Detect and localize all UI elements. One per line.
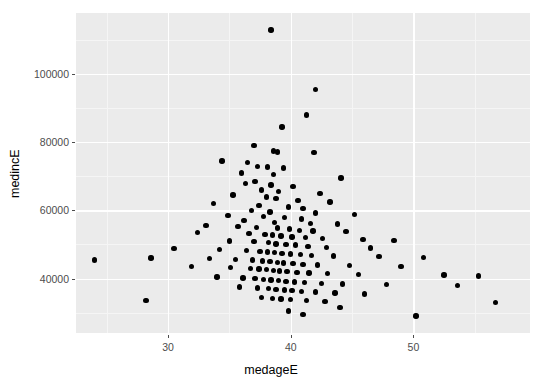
scatter-point [241, 218, 246, 223]
y-tick-label: 80000 [40, 136, 69, 148]
scatter-point [297, 228, 302, 233]
scatter-point [275, 149, 280, 154]
scatter-point [252, 179, 257, 184]
scatter-point [217, 247, 222, 252]
scatter-point [300, 312, 305, 317]
x-tick-label: 50 [408, 341, 420, 353]
scatter-point [413, 313, 418, 318]
scatter-point [283, 242, 288, 247]
scatter-point [245, 160, 250, 165]
gridline-major-vertical [413, 13, 414, 333]
y-tick-label: 40000 [40, 273, 69, 285]
scatter-point [264, 194, 269, 199]
scatter-point [259, 187, 264, 192]
scatter-point [244, 248, 249, 253]
scatter-point [282, 287, 287, 292]
scatter-point [283, 279, 288, 284]
gridline-major-horizontal [76, 74, 530, 75]
scatter-point [233, 257, 238, 262]
scatter-point [332, 290, 337, 295]
scatter-point [441, 272, 446, 277]
scatter-point [256, 266, 261, 271]
scatter-point [265, 164, 270, 169]
gridline-major-horizontal [76, 142, 530, 143]
gridline-minor-vertical [229, 13, 230, 333]
scatter-point [304, 112, 309, 117]
scatter-point [299, 289, 304, 294]
scatter-point [256, 203, 261, 208]
scatter-point [230, 192, 235, 197]
scatter-point [281, 260, 286, 265]
scatter-point [337, 305, 342, 310]
y-tick-label: 60000 [40, 204, 69, 216]
scatter-point [252, 276, 257, 281]
scatter-point [320, 236, 325, 241]
x-tick-label: 30 [162, 341, 174, 353]
scatter-point [276, 189, 281, 194]
scatter-point [227, 238, 232, 243]
scatter-point [368, 245, 373, 250]
x-tick-mark [413, 335, 414, 338]
scatter-point [325, 271, 330, 276]
gridline-minor-vertical [475, 13, 476, 333]
gridline-minor-horizontal [76, 108, 530, 109]
scatter-point [315, 262, 320, 267]
scatter-point [455, 283, 460, 288]
scatter-point [268, 27, 273, 32]
scatter-point [264, 267, 269, 272]
scatter-point [261, 277, 266, 282]
scatter-point [265, 249, 270, 254]
scatter-point [250, 257, 255, 262]
scatter-point [295, 198, 300, 203]
scatter-point [92, 257, 97, 262]
scatter-point [304, 298, 309, 303]
scatter-point [235, 224, 240, 229]
scatter-point [243, 181, 248, 186]
scatter-point [276, 278, 281, 283]
gridline-minor-vertical [107, 13, 108, 333]
scatter-point [298, 252, 303, 257]
scatter-point [189, 264, 194, 269]
gridline-minor-horizontal [76, 244, 530, 245]
scatter-point [143, 298, 148, 303]
scatter-point [286, 204, 291, 209]
scatter-point [322, 299, 327, 304]
scatter-point [277, 268, 282, 273]
gridline-minor-horizontal [76, 40, 530, 41]
scatter-point [278, 296, 283, 301]
scatter-point [148, 255, 153, 260]
scatter-point [324, 245, 329, 250]
scatter-point [302, 280, 307, 285]
scatter-point [335, 221, 340, 226]
scatter-point [251, 143, 256, 148]
scatter-point [360, 237, 365, 242]
scatter-point [493, 300, 498, 305]
scatter-point [343, 229, 348, 234]
scatter-point [384, 282, 389, 287]
scatter-point [260, 258, 265, 263]
scatter-point [268, 182, 273, 187]
scatter-point [219, 158, 224, 163]
scatter-point [308, 221, 313, 226]
scatter-point [352, 212, 357, 217]
scatter-point [293, 242, 298, 247]
y-tick-mark [72, 279, 75, 280]
scatter-point [309, 253, 314, 258]
scatter-point [327, 199, 332, 204]
scatter-point [356, 272, 361, 277]
plot-panel [76, 13, 530, 333]
scatter-point [254, 225, 259, 230]
scatter-point [171, 246, 176, 251]
scatter-point [362, 291, 367, 296]
scatter-point [313, 87, 318, 92]
y-tick-mark [72, 74, 75, 75]
scatter-point [273, 196, 278, 201]
gridline-minor-vertical [352, 13, 353, 333]
scatter-point [279, 251, 284, 256]
scatter-point [311, 150, 316, 155]
scatter-point [310, 228, 315, 233]
scatter-point [273, 241, 278, 246]
scatter-point [391, 238, 396, 243]
scatter-point [225, 213, 230, 218]
scatter-point [292, 279, 297, 284]
